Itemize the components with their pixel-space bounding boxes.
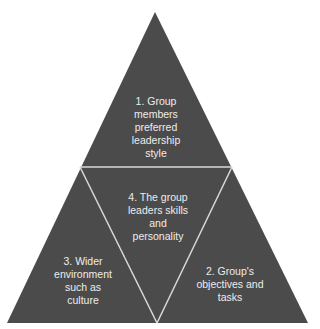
segment-2-label: 2. Group's objectives and tasks <box>183 265 277 304</box>
segment-1-label: 1. Group members preferred leadership st… <box>110 95 202 160</box>
segment-3-label: 3. Wider environment such as culture <box>40 255 126 307</box>
segment-4-label: 4. The group leaders skills and personal… <box>110 191 206 243</box>
